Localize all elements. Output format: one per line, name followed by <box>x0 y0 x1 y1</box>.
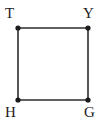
graph-diagram: T Y H G <box>0 0 105 127</box>
vertex-H <box>15 97 20 102</box>
vertex-label-H: H <box>5 105 16 120</box>
vertex-T <box>15 25 20 30</box>
vertex-group <box>15 25 90 102</box>
vertex-label-Y: Y <box>83 6 94 21</box>
vertex-label-T: T <box>5 6 14 21</box>
vertex-G <box>85 97 90 102</box>
edge-group <box>18 28 88 100</box>
vertex-label-G: G <box>84 105 95 120</box>
vertex-Y <box>85 25 90 30</box>
